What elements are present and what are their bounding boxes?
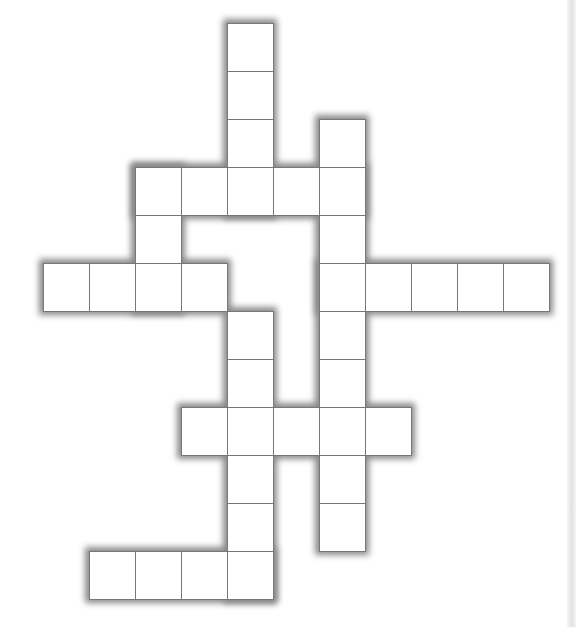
crossword-cell[interactable] — [227, 359, 274, 408]
crossword-cell[interactable] — [319, 359, 366, 408]
crossword-cell[interactable] — [181, 263, 228, 312]
crossword-cell[interactable] — [227, 311, 274, 360]
crossword-cell[interactable] — [227, 23, 274, 72]
crossword-cell[interactable] — [227, 71, 274, 120]
crossword-cell[interactable] — [43, 263, 90, 312]
crossword-cell[interactable] — [135, 167, 182, 216]
crossword-cell[interactable] — [273, 167, 320, 216]
crossword-cell[interactable] — [227, 167, 274, 216]
crossword-cell[interactable] — [319, 455, 366, 504]
crossword-cell[interactable] — [319, 263, 366, 312]
crossword-cell[interactable] — [227, 119, 274, 168]
crossword-cell[interactable] — [227, 455, 274, 504]
crossword-cell[interactable] — [319, 119, 366, 168]
page-edge-divider — [567, 0, 576, 627]
crossword-cell[interactable] — [227, 551, 274, 600]
crossword-board — [0, 0, 580, 627]
crossword-cell[interactable] — [181, 167, 228, 216]
crossword-cell[interactable] — [89, 263, 136, 312]
crossword-cell[interactable] — [319, 215, 366, 264]
crossword-cell[interactable] — [135, 551, 182, 600]
crossword-cell[interactable] — [135, 263, 182, 312]
crossword-cell[interactable] — [181, 551, 228, 600]
crossword-cell[interactable] — [365, 407, 412, 456]
crossword-cell[interactable] — [135, 215, 182, 264]
crossword-cell[interactable] — [457, 263, 504, 312]
crossword-cell[interactable] — [319, 311, 366, 360]
crossword-cell[interactable] — [227, 503, 274, 552]
crossword-cell[interactable] — [89, 551, 136, 600]
crossword-cell[interactable] — [273, 407, 320, 456]
crossword-cell[interactable] — [319, 167, 366, 216]
crossword-cell[interactable] — [503, 263, 550, 312]
crossword-cell[interactable] — [319, 407, 366, 456]
crossword-cell[interactable] — [181, 407, 228, 456]
crossword-cell[interactable] — [227, 407, 274, 456]
crossword-cell[interactable] — [411, 263, 458, 312]
crossword-cell[interactable] — [319, 503, 366, 552]
crossword-cell[interactable] — [365, 263, 412, 312]
